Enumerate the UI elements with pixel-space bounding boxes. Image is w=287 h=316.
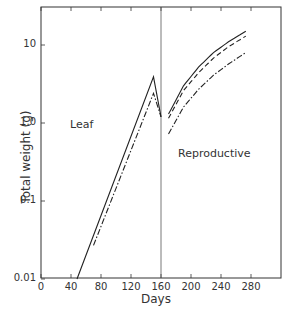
- series-line: [169, 31, 246, 114]
- leaf-annotation: Leaf: [70, 118, 93, 131]
- x-axis-title: Days: [141, 292, 171, 306]
- y-axis-title: Total weight (g): [19, 107, 33, 207]
- x-tick-label: 120: [116, 281, 146, 292]
- series-line: [169, 36, 246, 118]
- series-line: [94, 93, 162, 245]
- x-tick-label: 0: [26, 281, 56, 292]
- x-tick-label: 200: [176, 281, 206, 292]
- y-tick-label: 10: [6, 38, 36, 49]
- x-tick-label: 80: [86, 281, 116, 292]
- x-tick-label: 280: [236, 281, 266, 292]
- x-tick-label: 40: [56, 281, 86, 292]
- reproductive-annotation: Reproductive: [178, 147, 251, 160]
- x-tick-label: 160: [146, 281, 176, 292]
- series-line: [77, 77, 161, 279]
- x-tick-label: 240: [206, 281, 236, 292]
